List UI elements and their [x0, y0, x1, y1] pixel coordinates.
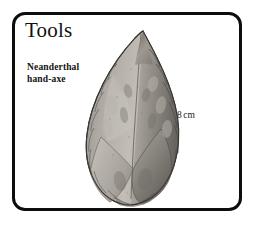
screenshot-canvas: Tools Neanderthal hand-axe 8cm — [0, 0, 254, 227]
specimen-caption-line-1: Neanderthal — [27, 62, 79, 74]
hand-axe-body — [86, 31, 178, 207]
hand-axe-image — [83, 29, 183, 207]
scale-unit: cm — [183, 110, 195, 120]
tools-panel: Tools Neanderthal hand-axe 8cm — [12, 12, 242, 211]
specimen-caption: Neanderthal hand-axe — [27, 62, 79, 85]
page-title: Tools — [25, 20, 72, 41]
hand-axe-illustration — [83, 29, 183, 207]
specimen-caption-line-2: hand-axe — [27, 74, 79, 86]
